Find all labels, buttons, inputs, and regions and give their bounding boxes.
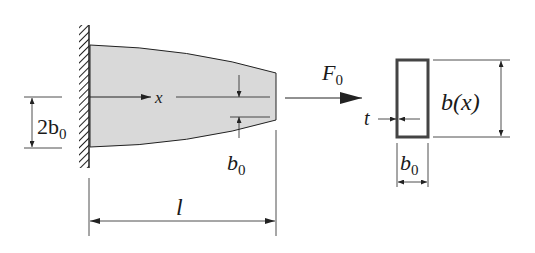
thickness-label: t [364,107,370,129]
end-gap-label: b0 [227,150,246,178]
force-label: F0 [321,60,343,88]
cross-section [397,60,428,137]
fixed-wall [79,25,89,168]
length-label: l [176,194,183,220]
beam-diagram: x b0 2b0 l F0 t b(x) [0,0,535,253]
beam-body [90,45,276,147]
section-width-label: b0 [400,150,419,178]
section-height-label: b(x) [441,89,480,115]
x-axis-label: x [154,88,163,107]
height-dimension-label: 2b0 [37,114,67,142]
